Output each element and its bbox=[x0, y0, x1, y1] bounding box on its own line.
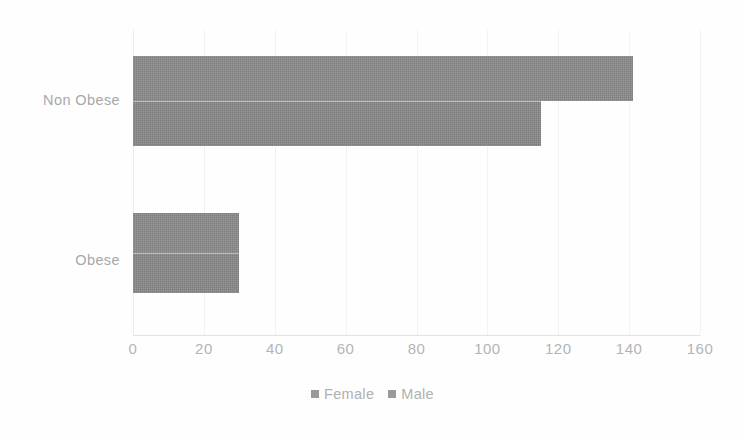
category-label-non-obese: Non Obese bbox=[0, 92, 120, 108]
square-marker-icon bbox=[311, 390, 319, 398]
x-tick-label-140: 140 bbox=[604, 340, 654, 357]
x-tick-label-80: 80 bbox=[392, 340, 442, 357]
bar-non-obese-male[interactable] bbox=[133, 101, 541, 146]
legend-item-male[interactable]: Male bbox=[388, 386, 434, 402]
legend-item-female[interactable]: Female bbox=[311, 386, 374, 402]
x-tick-label-60: 60 bbox=[321, 340, 371, 357]
chart-legend: Female Male bbox=[0, 386, 745, 402]
x-tick-label-100: 100 bbox=[462, 340, 512, 357]
x-tick-label-40: 40 bbox=[250, 340, 300, 357]
bar-group-non-obese bbox=[133, 56, 700, 146]
category-label-obese: Obese bbox=[0, 252, 120, 268]
bar-obese-male[interactable] bbox=[133, 253, 239, 293]
bar-chart: Non Obese Obese 0 20 40 60 80 100 120 14… bbox=[0, 0, 745, 434]
legend-label-male: Male bbox=[401, 386, 434, 402]
x-tick-label-120: 120 bbox=[533, 340, 583, 357]
plot-area bbox=[133, 30, 700, 335]
bar-non-obese-female[interactable] bbox=[133, 56, 633, 101]
x-tick-label-160: 160 bbox=[675, 340, 725, 357]
bar-separator bbox=[133, 101, 541, 102]
gridline-160 bbox=[700, 30, 701, 335]
bar-separator bbox=[133, 253, 239, 254]
square-marker-icon bbox=[388, 390, 396, 398]
bar-group-obese bbox=[133, 213, 700, 293]
x-tick-label-20: 20 bbox=[179, 340, 229, 357]
x-tick-label-0: 0 bbox=[108, 340, 158, 357]
x-axis-line bbox=[133, 335, 700, 336]
legend-label-female: Female bbox=[324, 386, 374, 402]
bar-obese-female[interactable] bbox=[133, 213, 239, 253]
